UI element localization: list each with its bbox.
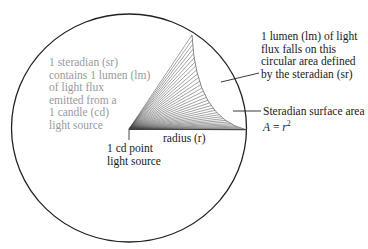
point-source-line: 1 cd point [107,142,161,155]
formula-equals: = [270,120,282,132]
formula-exponent: 2 [287,119,291,128]
steradian-desc-line: light source [49,119,150,132]
surface-area-text: Steradian surface area [263,105,365,118]
lumen-desc-line: 1 lumen (lm) of light [261,30,357,43]
steradian-description: 1 steradian (sr) contains 1 lumen (lm) o… [49,56,150,131]
steradian-desc-line: emitted from a [49,94,150,107]
lumen-description: 1 lumen (lm) of light flux falls on this… [261,30,357,80]
lumen-leader-line [221,73,259,82]
radius-label: radius (r) [163,132,205,145]
point-source-line: light source [107,155,161,168]
lumen-desc-line: flux falls on this [261,43,357,56]
point-source-label: 1 cd point light source [107,142,161,167]
lumen-desc-line: circular area defined [261,55,357,68]
steradian-desc-line: of light flux [49,81,150,94]
steradian-desc-line: 1 candle (cd) [49,106,150,119]
lumen-desc-line: by the steradian (sr) [261,68,357,81]
formula-area-symbol: A [263,120,270,132]
surface-area-formula: A = r2 [263,118,365,133]
steradian-desc-line: 1 steradian (sr) [49,56,150,69]
steradian-desc-line: contains 1 lumen (lm) [49,69,150,82]
surface-area-label: Steradian surface area A = r2 [263,105,365,133]
